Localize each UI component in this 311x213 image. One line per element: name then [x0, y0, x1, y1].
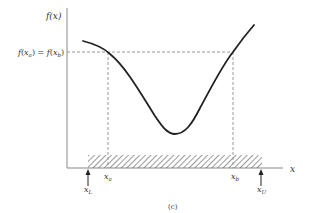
xl-label: xL [84, 185, 93, 195]
xl-arrow-icon [86, 169, 91, 186]
level-label: f(xa) = f(xb) [17, 48, 64, 58]
unimodal-function-diagram: f(x) f(xa) = f(xb) x xa xb xL xU (c) [0, 0, 311, 213]
y-axis-label: f(x) [45, 11, 62, 21]
function-curve [83, 25, 254, 134]
figure-caption: (c) [168, 203, 178, 211]
x-axis-label: x [290, 164, 295, 174]
xu-label: xU [257, 185, 267, 195]
xu-arrow-icon [259, 169, 264, 186]
xb-label: xb [231, 172, 240, 182]
xa-label: xa [104, 172, 112, 182]
hatched-interval-region [88, 155, 262, 168]
